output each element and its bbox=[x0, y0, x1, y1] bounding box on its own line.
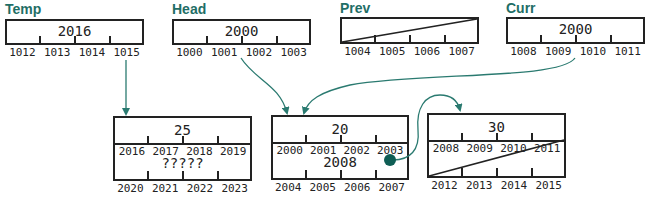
arrow-head-to-node-20 bbox=[241, 58, 287, 113]
pointer-dot-icon bbox=[384, 154, 396, 166]
arrows-layer bbox=[0, 0, 648, 198]
arrow-curr-to-node-20 bbox=[304, 58, 575, 113]
arrow-node-20-to-node-30 bbox=[393, 95, 460, 160]
